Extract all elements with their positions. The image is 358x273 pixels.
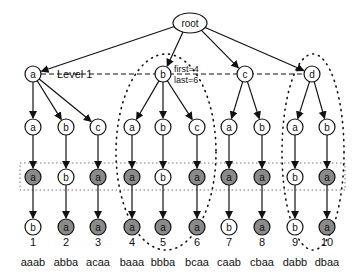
level1-node-b: b	[155, 66, 171, 82]
node-label: b	[63, 172, 69, 183]
leaf-index: 10	[321, 236, 333, 248]
node-label: a	[30, 172, 36, 183]
level1-node-d: d	[304, 66, 320, 82]
node-label: c	[195, 122, 200, 133]
edge-l1-l2	[137, 81, 159, 119]
edge-l1-l2	[247, 82, 259, 119]
node-label: a	[324, 222, 330, 233]
leaf-index: 6	[194, 236, 200, 248]
node-label: a	[129, 122, 135, 133]
node-label: a	[30, 122, 36, 133]
level2-node: b	[319, 119, 335, 135]
level3-node: a	[189, 169, 205, 185]
node-label: c	[243, 69, 248, 80]
first-annotation: first=4	[174, 64, 199, 74]
edge-l1-l2	[232, 82, 243, 119]
leaf-word: cbaa	[250, 256, 275, 268]
node-label: b	[63, 122, 69, 133]
edge-root-b	[167, 31, 183, 66]
node-label: a	[324, 172, 330, 183]
level2-node: a	[221, 119, 237, 135]
level1-node-a: a	[25, 66, 41, 82]
level4-node: a	[90, 219, 106, 235]
edge-l1-l2	[314, 82, 324, 119]
leaf-index: 5	[160, 236, 166, 248]
node-label: a	[292, 122, 298, 133]
level2-node: a	[25, 119, 41, 135]
last-annotation: last=6	[174, 75, 198, 85]
node-label: a	[194, 172, 200, 183]
node-label: b	[30, 222, 36, 233]
level3-node: a	[254, 169, 270, 185]
leaf-index: 7	[226, 236, 232, 248]
leaf-index: 3	[95, 236, 101, 248]
level2-node: b	[155, 119, 171, 135]
node-label: b	[292, 222, 298, 233]
leaf-word: abba	[54, 256, 79, 268]
node-label: a	[30, 69, 36, 80]
level4-node: b	[287, 219, 303, 235]
node-label: d	[309, 69, 315, 80]
leaf-word: aaab	[21, 256, 45, 268]
node-label: b	[160, 122, 166, 133]
edge-l1-l2	[39, 79, 91, 121]
node-label: b	[226, 222, 232, 233]
level3-node: b	[58, 169, 74, 185]
level2-node: b	[254, 119, 270, 135]
leaf-word: bcaa	[185, 256, 210, 268]
level4-node: a	[319, 219, 335, 235]
level1-label: Level 1	[57, 68, 92, 80]
node-label: a	[63, 222, 69, 233]
leaf-index: 1	[30, 236, 36, 248]
level2-node: b	[58, 119, 74, 135]
leaf-index: 8	[259, 236, 265, 248]
leaf-word: dabb	[283, 256, 307, 268]
level3-node: a	[221, 169, 237, 185]
level3-node: a	[25, 169, 41, 185]
level3-node: b	[155, 169, 171, 185]
node-label: b	[160, 172, 166, 183]
node-label: b	[324, 122, 330, 133]
root-node: root	[173, 13, 207, 33]
level3-node: a	[90, 169, 106, 185]
level2-node: a	[287, 119, 303, 135]
node-label: a	[129, 222, 135, 233]
level4-node: a	[124, 219, 140, 235]
node-label: a	[259, 222, 265, 233]
root-label: root	[181, 18, 198, 29]
node-label: a	[95, 172, 101, 183]
level3-node: a	[319, 169, 335, 185]
node-label: a	[129, 172, 135, 183]
node-label: a	[259, 172, 265, 183]
node-label: b	[160, 69, 166, 80]
leaf-index: 9	[292, 236, 298, 248]
level1-node-c: c	[237, 66, 253, 82]
leaf-word: baaa	[120, 256, 145, 268]
level4-node: a	[189, 219, 205, 235]
leaf-index: 4	[129, 236, 135, 248]
leaf-word: bbba	[151, 256, 176, 268]
edge-l1-l2	[167, 81, 192, 120]
edge-root-a	[42, 26, 177, 71]
level3-node: a	[124, 169, 140, 185]
leaf-word: acaa	[86, 256, 111, 268]
node-label: a	[226, 122, 232, 133]
node-label: a	[194, 222, 200, 233]
leaf-word: caab	[217, 256, 241, 268]
leaf-word: dbaa	[315, 256, 340, 268]
level4-node: a	[155, 219, 171, 235]
node-label: a	[95, 222, 101, 233]
level4-node: b	[221, 219, 237, 235]
edge-root-c	[200, 29, 238, 68]
level3-node: b	[287, 169, 303, 185]
node-label: a	[226, 172, 232, 183]
node-label: a	[160, 222, 166, 233]
level2-node: c	[189, 119, 205, 135]
level2-node: c	[90, 119, 106, 135]
level4-node: a	[254, 219, 270, 235]
node-label: c	[96, 122, 101, 133]
trie-diagram: rootabcdaabbbacaaaaabbacaaaabbaaabbbaa 1…	[0, 0, 358, 273]
level4-node: b	[25, 219, 41, 235]
node-label: b	[292, 172, 298, 183]
level2-node: a	[124, 119, 140, 135]
